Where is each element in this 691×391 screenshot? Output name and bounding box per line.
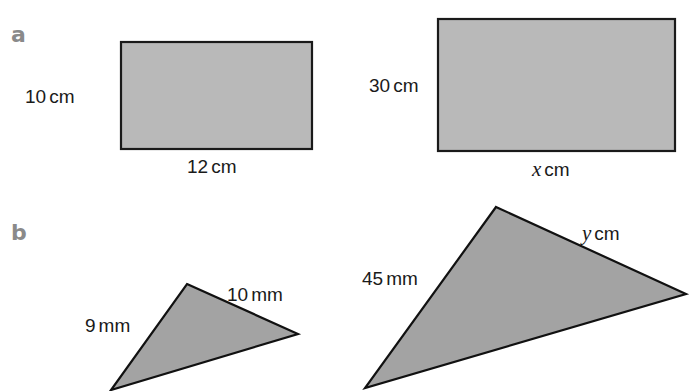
part-a: a10cm12cm30cmxcm (11, 19, 675, 181)
part-label: a (11, 22, 26, 47)
rectangle-shape (121, 42, 312, 149)
part-b: b9mm10mm45mmycm (11, 207, 686, 390)
triangle-figure: 9mm10mm (85, 284, 298, 390)
dimension-label-left: 45mm (362, 268, 418, 289)
dimension-label-upper-right: ycm (580, 221, 620, 245)
triangle-figure: 45mmycm (362, 207, 686, 388)
unit: mm (251, 284, 283, 305)
unit: mm (386, 268, 418, 289)
similar-shapes-diagram: a10cm12cm30cmxcmb9mm10mm45mmycm (0, 0, 691, 391)
value: 30 (369, 75, 390, 96)
value: 9 (85, 315, 96, 336)
parts-layer: a10cm12cm30cmxcmb9mm10mm45mmycm (11, 19, 686, 390)
unit: cm (594, 223, 619, 244)
value: 12 (187, 156, 208, 177)
dimension-label-upper-right: 10mm (227, 284, 283, 305)
variable: y (580, 221, 592, 245)
value: 10 (227, 284, 248, 305)
unit: mm (99, 315, 131, 336)
unit: cm (49, 86, 74, 107)
dimension-label-bottom: 12cm (187, 156, 236, 177)
unit: cm (393, 75, 418, 96)
triangle-shape (365, 207, 686, 388)
value: 10 (25, 86, 46, 107)
unit: cm (544, 159, 569, 180)
part-label: b (11, 220, 27, 245)
rectangle-figure: 30cmxcm (369, 19, 675, 181)
rectangle-shape (438, 19, 675, 151)
variable: x (531, 157, 542, 181)
dimension-label-bottom: xcm (531, 157, 570, 181)
dimension-label-left: 30cm (369, 75, 418, 96)
dimension-label-left: 10cm (25, 86, 74, 107)
value: 45 (362, 268, 383, 289)
unit: cm (211, 156, 236, 177)
dimension-label-left: 9mm (85, 315, 130, 336)
rectangle-figure: 10cm12cm (25, 42, 312, 177)
